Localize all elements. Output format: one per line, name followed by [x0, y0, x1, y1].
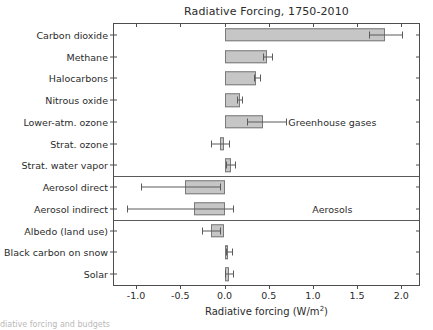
- bar: [225, 50, 267, 63]
- y-axis-category-label: Aerosol indirect: [34, 203, 108, 214]
- error-bar-cap: [242, 97, 243, 104]
- y-axis-tick-right: [416, 252, 419, 253]
- y-axis-tick-inner: [114, 165, 117, 166]
- y-axis-tick-inner: [114, 252, 117, 253]
- error-bar-cap: [235, 162, 236, 169]
- y-axis-tick-right: [416, 34, 419, 35]
- error-bar-cap: [286, 118, 287, 125]
- x-axis-tick-top: [313, 24, 314, 27]
- error-bar-cap: [226, 249, 227, 256]
- y-axis-tick-inner: [114, 143, 117, 144]
- x-axis-tick-top: [225, 24, 226, 27]
- chart-title: Radiative Forcing, 1750-2010: [113, 5, 420, 18]
- x-axis-tick-label: 2.0: [394, 290, 409, 301]
- x-axis-tick: [225, 285, 226, 289]
- error-bar-cap: [220, 227, 221, 234]
- y-axis-tick-inner: [114, 78, 117, 79]
- y-axis-tick-right: [416, 208, 419, 209]
- y-axis-category-label: Solar: [84, 269, 108, 280]
- x-axis-title: Radiative forcing (W/m2): [113, 305, 420, 317]
- error-bar-line: [202, 230, 220, 231]
- y-axis-tick-right: [416, 143, 419, 144]
- error-bar-cap: [127, 205, 128, 212]
- y-axis-tick-right: [416, 100, 419, 101]
- x-axis-tick: [136, 285, 137, 289]
- x-axis-tick: [401, 285, 402, 289]
- error-bar-cap: [233, 271, 234, 278]
- y-axis-category-label: Strat. water vapor: [21, 160, 108, 171]
- error-bar-line: [225, 274, 233, 275]
- error-bar-cap: [202, 227, 203, 234]
- radiative-forcing-figure: Radiative Forcing, 1750-2010 -1.0-0.50.0…: [0, 0, 433, 330]
- y-axis-category-label: Aerosol direct: [43, 182, 108, 193]
- error-bar-cap: [211, 140, 212, 147]
- y-axis-category-label: Halocarbons: [49, 73, 108, 84]
- error-bar-cap: [263, 53, 264, 60]
- x-axis-tick-label: -1.0: [127, 290, 146, 301]
- y-axis-tick-inner: [114, 34, 117, 35]
- error-bar-line: [263, 56, 272, 57]
- y-axis-tick-inner: [114, 56, 117, 57]
- error-bar-cap: [141, 184, 142, 191]
- group-divider: [114, 220, 419, 221]
- x-axis-title-text: Radiative forcing (W/m: [205, 306, 320, 317]
- x-axis-tick-top: [136, 24, 137, 27]
- error-bar-line: [247, 121, 286, 122]
- group-divider: [114, 176, 419, 177]
- y-axis-tick-right: [416, 165, 419, 166]
- error-bar-line: [226, 165, 235, 166]
- error-bar-line: [127, 208, 233, 209]
- y-axis-category-label: Lower-atm. ozone: [23, 116, 108, 127]
- error-bar-line: [141, 187, 221, 188]
- y-axis-tick-right: [416, 56, 419, 57]
- x-axis-tick: [269, 285, 270, 289]
- error-bar-cap: [220, 184, 221, 191]
- x-axis-tick-label: 1.5: [350, 290, 365, 301]
- y-axis-tick-inner: [114, 274, 117, 275]
- x-axis-tick-label: 0.0: [217, 290, 232, 301]
- y-axis-category-label: Carbon dioxide: [36, 29, 108, 40]
- page-caption-fragment: diative forcing and budgets: [0, 320, 433, 330]
- error-bar-cap: [272, 53, 273, 60]
- error-bar-cap: [237, 97, 238, 104]
- y-axis-tick-right: [416, 230, 419, 231]
- y-axis-category-label: Methane: [67, 51, 108, 62]
- error-bar-cap: [369, 31, 370, 38]
- x-axis-tick-label: 0.5: [261, 290, 276, 301]
- plot-area: -1.0-0.50.00.51.01.52.0Carbon dioxideMet…: [113, 23, 420, 286]
- x-axis-tick-label: -0.5: [171, 290, 190, 301]
- y-axis-tick-right: [416, 78, 419, 79]
- group-annotation-label: Greenhouse gases: [288, 116, 376, 127]
- y-axis-tick-inner: [114, 100, 117, 101]
- error-bar-cap: [260, 75, 261, 82]
- y-axis-category-label: Nitrous oxide: [45, 95, 108, 106]
- error-bar-line: [211, 143, 229, 144]
- y-axis-tick-inner: [114, 208, 117, 209]
- y-axis-category-label: Strat. ozone: [50, 138, 108, 149]
- error-bar-cap: [254, 75, 255, 82]
- x-axis-tick-top: [269, 24, 270, 27]
- y-axis-tick-right: [416, 187, 419, 188]
- error-bar-cap: [402, 31, 403, 38]
- y-axis-category-label: Albedo (land use): [24, 225, 108, 236]
- y-axis-tick-inner: [114, 187, 117, 188]
- y-axis-tick-inner: [114, 230, 117, 231]
- x-axis-tick-top: [357, 24, 358, 27]
- y-axis-tick-right: [416, 121, 419, 122]
- x-axis-title-tail: ): [324, 306, 328, 317]
- error-bar-cap: [233, 205, 234, 212]
- x-axis-tick: [180, 285, 181, 289]
- error-bar-cap: [232, 249, 233, 256]
- x-axis-tick: [357, 285, 358, 289]
- x-axis-tick: [313, 285, 314, 289]
- error-bar-cap: [226, 162, 227, 169]
- bar: [225, 72, 257, 85]
- bar: [225, 28, 386, 41]
- x-axis-tick-label: 1.0: [305, 290, 320, 301]
- error-bar-cap: [247, 118, 248, 125]
- error-bar-cap: [225, 271, 226, 278]
- error-bar-line: [369, 34, 403, 35]
- error-bar-cap: [229, 140, 230, 147]
- y-axis-tick-inner: [114, 121, 117, 122]
- y-axis-tick-right: [416, 274, 419, 275]
